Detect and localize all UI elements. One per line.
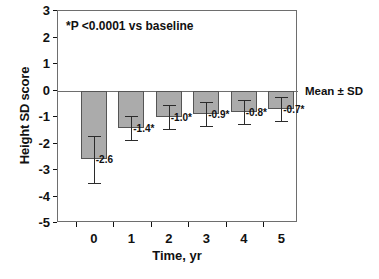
significance-note: *P <0.0001 vs baseline xyxy=(66,19,194,33)
error-bar-line xyxy=(281,97,282,121)
x-axis-tick-label: 0 xyxy=(84,232,104,245)
error-bar-cap-upper xyxy=(275,97,288,98)
y-axis-tick-mark xyxy=(53,222,57,223)
bar-value-label: -1.4* xyxy=(133,124,154,134)
error-bar-cap-upper xyxy=(163,105,176,106)
chart-figure: Height SD score 3210-1-2-3-4-5 *P <0.000… xyxy=(0,0,379,279)
x-axis-tick-label: 2 xyxy=(159,232,179,245)
error-bar-cap-upper xyxy=(125,116,138,117)
error-bar-cap-lower xyxy=(238,124,251,125)
error-bar-cap-lower xyxy=(200,126,213,127)
x-axis-tick-mark xyxy=(151,222,152,227)
error-bar-cap-upper xyxy=(238,100,251,101)
y-axis-tick-label: -4 xyxy=(28,190,50,203)
error-bar-line xyxy=(244,100,245,124)
y-axis-tick-label: -1 xyxy=(28,110,50,123)
y-axis-tick-label: -3 xyxy=(28,163,50,176)
x-axis-title: Time, yr xyxy=(57,248,297,263)
y-axis-tick-label: 3 xyxy=(28,4,50,17)
bar-value-label: -0.8* xyxy=(246,108,267,118)
error-definition-legend: Mean ± SD xyxy=(305,85,363,97)
y-axis-tick-label: -5 xyxy=(28,216,50,229)
x-axis-tick-mark xyxy=(188,222,189,227)
error-bar-cap-lower xyxy=(125,140,138,141)
error-bar-cap-lower xyxy=(88,183,101,184)
bar-value-label: -2.6 xyxy=(96,155,113,165)
y-axis-tick-label: 0 xyxy=(28,84,50,97)
error-bar-cap-upper xyxy=(88,136,101,137)
plot-area: *P <0.0001 vs baseline -2.6-1.4*-1.0*-0.… xyxy=(57,10,297,222)
error-bar-cap-lower xyxy=(163,129,176,130)
x-axis-tick-label: 3 xyxy=(196,232,216,245)
x-axis-tick-mark xyxy=(263,222,264,227)
x-axis-tick-label: 4 xyxy=(234,232,254,245)
error-bar-line xyxy=(94,136,95,184)
bar-value-label: -1.0* xyxy=(171,113,192,123)
error-bar-line xyxy=(169,105,170,129)
x-axis-tick-label: 5 xyxy=(271,232,291,245)
x-axis-tick-mark xyxy=(76,222,77,227)
error-bar-line xyxy=(131,116,132,140)
bar-value-label: -0.7* xyxy=(283,105,304,115)
x-axis-tick-label: 1 xyxy=(121,232,141,245)
y-axis-tick-label: 1 xyxy=(28,57,50,70)
x-axis-tick-mark xyxy=(113,222,114,227)
error-bar-cap-upper xyxy=(200,102,213,103)
x-axis-tick-mark xyxy=(226,222,227,227)
y-axis-tick-label: 2 xyxy=(28,31,50,44)
y-axis-tick-label: -2 xyxy=(28,137,50,150)
bar-value-label: -0.9* xyxy=(208,110,229,120)
error-bar-cap-lower xyxy=(275,121,288,122)
error-bar-line xyxy=(206,102,207,126)
